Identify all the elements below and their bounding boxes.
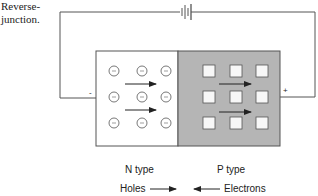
legend-holes-label: Holes <box>120 183 146 194</box>
negative-terminal-label: - <box>89 88 92 97</box>
battery-icon <box>182 4 191 20</box>
p-type-label: P type <box>217 164 245 175</box>
n-type-label: N type <box>125 164 154 175</box>
hole-symbols <box>203 65 268 129</box>
positive-terminal-label: + <box>283 86 288 95</box>
pn-junction-diagram <box>0 0 318 196</box>
legend-electrons-label: Electrons <box>224 183 266 194</box>
